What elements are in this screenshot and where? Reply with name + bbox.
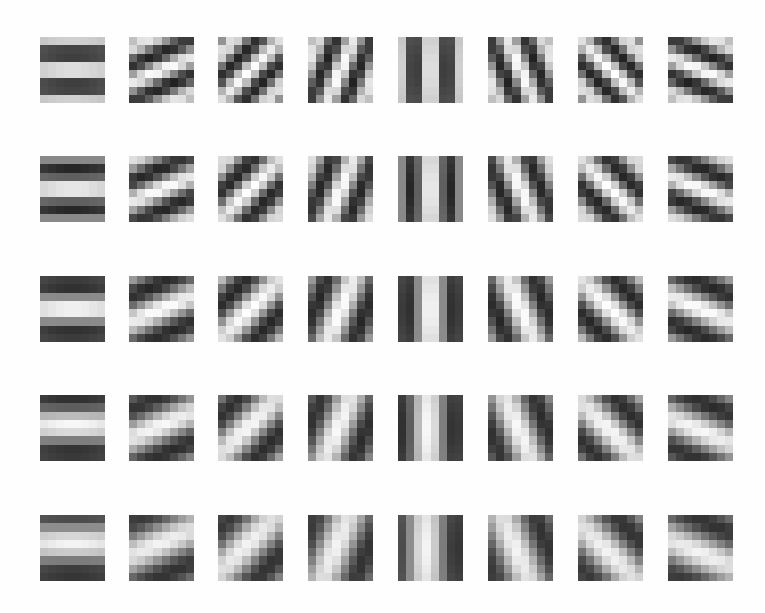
filter-cell — [537, 403, 545, 411]
filter-cell — [89, 326, 97, 334]
filter-cell — [537, 70, 545, 78]
filter-cell — [496, 420, 504, 428]
filter-cell — [447, 317, 455, 325]
filter-cell — [267, 214, 275, 222]
filter-cell — [545, 95, 553, 103]
filter-cell — [586, 453, 594, 461]
filter-cell — [684, 214, 692, 222]
filter-cell — [81, 181, 89, 189]
filter-cell — [619, 181, 627, 189]
filter-cell — [170, 565, 178, 573]
filter-cell — [602, 326, 610, 334]
filter-cell — [129, 395, 137, 403]
filter-cell — [324, 573, 332, 581]
filter-cell — [406, 317, 414, 325]
filter-cell — [129, 276, 137, 284]
filter-cell — [178, 301, 186, 309]
filter-cell — [406, 420, 414, 428]
filter-cell — [676, 276, 684, 284]
filter-cell — [218, 293, 226, 301]
filter-cell — [129, 197, 137, 205]
filter-cell — [89, 95, 97, 103]
filter-cell — [308, 334, 316, 342]
filter-cell — [701, 556, 709, 564]
filter-cell — [267, 164, 275, 172]
filter-cell — [439, 436, 447, 444]
filter-cell — [365, 197, 373, 205]
filter-cell — [267, 403, 275, 411]
filter-cell — [414, 309, 422, 317]
filter-cell — [725, 309, 733, 317]
filter-cell — [40, 523, 48, 531]
filter-cell — [619, 70, 627, 78]
filter-cell — [414, 395, 422, 403]
filter-cell — [89, 573, 97, 581]
filter-cell — [332, 301, 340, 309]
filter-cell — [186, 70, 194, 78]
filter-cell — [186, 395, 194, 403]
filter-cell — [349, 37, 357, 45]
filter-cell — [153, 164, 161, 172]
filter-cell — [81, 515, 89, 523]
filter-cell — [349, 214, 357, 222]
filter-cell — [308, 197, 316, 205]
filter-cell — [170, 276, 178, 284]
filter-cell — [684, 428, 692, 436]
filter-cell — [586, 206, 594, 214]
filter-cell — [251, 206, 259, 214]
filter-cell — [64, 284, 72, 292]
filter-cell — [259, 395, 267, 403]
filter-cell — [488, 284, 496, 292]
filter-cell — [529, 436, 537, 444]
filter-cell — [64, 156, 72, 164]
filter-cell — [414, 284, 422, 292]
filter-cell — [308, 445, 316, 453]
filter-patch — [488, 156, 553, 222]
filter-cell — [431, 87, 439, 95]
filter-cell — [537, 45, 545, 53]
filter-cell — [422, 334, 430, 342]
filter-cell — [488, 95, 496, 103]
filter-cell — [537, 326, 545, 334]
filter-cell — [447, 565, 455, 573]
filter-cell — [153, 54, 161, 62]
filter-cell — [56, 37, 64, 45]
filter-patch — [129, 156, 194, 222]
filter-cell — [635, 556, 643, 564]
filter-cell — [332, 523, 340, 531]
filter-cell — [40, 412, 48, 420]
filter-cell — [488, 453, 496, 461]
filter-cell — [529, 156, 537, 164]
filter-cell — [137, 317, 145, 325]
filter-cell — [611, 540, 619, 548]
filter-cell — [218, 523, 226, 531]
filter-cell — [447, 403, 455, 411]
filter-cell — [398, 62, 406, 70]
filter-cell — [170, 556, 178, 564]
filter-cell — [137, 189, 145, 197]
filter-cell — [692, 70, 700, 78]
filter-cell — [512, 420, 520, 428]
filter-cell — [414, 62, 422, 70]
filter-cell — [357, 403, 365, 411]
filter-cell — [226, 428, 234, 436]
filter-cell — [619, 293, 627, 301]
filter-cell — [439, 284, 447, 292]
filter-cell — [668, 301, 676, 309]
filter-cell — [137, 556, 145, 564]
filter-cell — [398, 276, 406, 284]
filter-cell — [137, 428, 145, 436]
filter-cell — [48, 164, 56, 172]
filter-cell — [398, 412, 406, 420]
filter-cell — [725, 293, 733, 301]
filter-cell — [537, 164, 545, 172]
filter-cell — [488, 573, 496, 581]
filter-cell — [48, 532, 56, 540]
filter-cell — [73, 197, 81, 205]
filter-cell — [267, 428, 275, 436]
filter-cell — [414, 334, 422, 342]
filter-cell — [341, 301, 349, 309]
filter-patch — [308, 395, 373, 461]
filter-cell — [504, 436, 512, 444]
filter-cell — [170, 548, 178, 556]
